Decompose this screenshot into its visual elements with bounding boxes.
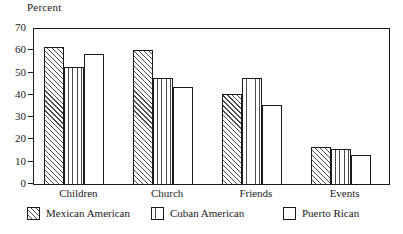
y-axis-tick: 0 (0, 178, 33, 190)
bar[interactable] (44, 47, 64, 185)
legend-item[interactable]: Cuban American (151, 204, 244, 222)
bar-group (222, 29, 282, 185)
bar[interactable] (262, 105, 282, 185)
y-axis-tick-label: 20 (15, 132, 26, 145)
bar[interactable] (173, 87, 193, 185)
bar[interactable] (311, 147, 331, 185)
y-axis-tick: 40 (0, 89, 33, 101)
legend-item[interactable]: Puerto Rican (283, 204, 359, 222)
y-axis-tick-label: 10 (15, 155, 26, 168)
y-axis-tick-label: 50 (15, 66, 26, 79)
bar[interactable] (351, 155, 371, 185)
y-axis-tick: 50 (0, 67, 33, 79)
legend-swatch (27, 207, 40, 220)
bar[interactable] (133, 50, 153, 185)
legend-label: Cuban American (170, 207, 244, 220)
y-axis-tick-label: 60 (15, 43, 26, 56)
legend-swatch (283, 207, 296, 220)
bar[interactable] (331, 149, 351, 185)
y-axis-tick: 10 (0, 156, 33, 168)
bar[interactable] (222, 94, 242, 185)
x-axis-labels: ChildrenChurchFriendsEvents (34, 186, 389, 204)
plot-area (34, 29, 389, 185)
y-axis-tick: 60 (0, 44, 33, 56)
legend-label: Puerto Rican (302, 207, 359, 220)
y-axis-tick-label: 40 (15, 88, 26, 101)
y-axis-tick: 20 (0, 133, 33, 145)
bar[interactable] (242, 78, 262, 185)
legend-swatch (151, 207, 164, 220)
bar[interactable] (84, 54, 104, 185)
bar-group (133, 29, 193, 185)
y-axis-tick-label: 30 (15, 110, 26, 123)
x-axis-label: Children (34, 186, 123, 201)
y-axis-tick-label: 0 (21, 177, 27, 190)
bar[interactable] (153, 78, 173, 185)
legend-label: Mexican American (46, 207, 130, 220)
chart-legend: Mexican AmericanCuban AmericanPuerto Ric… (27, 204, 403, 226)
x-axis-label: Events (300, 186, 389, 201)
legend-item[interactable]: Mexican American (27, 204, 130, 222)
y-axis-tick: 70 (0, 22, 33, 34)
bar-group (44, 29, 104, 185)
bar-group (311, 29, 371, 185)
x-axis-label: Friends (212, 186, 301, 201)
y-axis-tick: 30 (0, 111, 33, 123)
bar[interactable] (64, 67, 84, 185)
y-axis-caption: Percent (27, 1, 61, 13)
y-axis: 010203040506070 (0, 28, 33, 185)
grouped-bar-chart: Percent 010203040506070 ChildrenChurchFr… (0, 0, 403, 234)
x-axis-label: Church (123, 186, 212, 201)
y-axis-tick-label: 70 (15, 21, 26, 34)
